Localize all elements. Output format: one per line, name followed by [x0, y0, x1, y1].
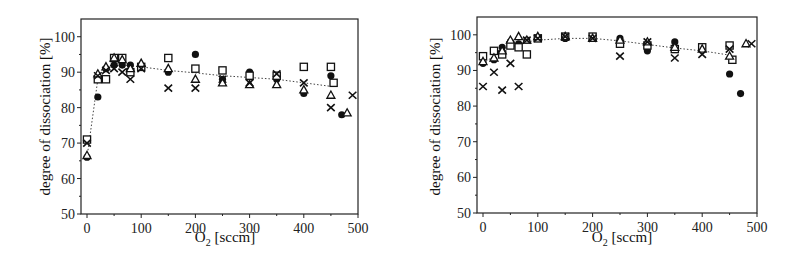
y-tick-label: 100	[54, 30, 75, 45]
cross-marker	[327, 104, 335, 111]
open-triangle-marker	[83, 151, 91, 158]
y-tick-label: 90	[457, 63, 471, 78]
open-triangle-marker	[506, 36, 514, 43]
open-square-marker	[192, 65, 199, 72]
x-tick-label: 500	[348, 221, 369, 236]
x-tick-label: 500	[747, 220, 768, 235]
right-y-axis-label: degree of dissociation [%]	[427, 17, 444, 217]
y-tick-label: 60	[457, 170, 471, 185]
open-triangle-marker	[164, 64, 172, 71]
right-chart-plot: 50607080901000100200300400500	[394, 0, 788, 267]
left-x-axis-label: O2 [sccm]	[170, 229, 280, 248]
y-tick-label: 100	[450, 28, 471, 43]
y-tick-label: 70	[457, 135, 471, 150]
y-tick-label: 70	[61, 136, 75, 151]
left-chart: 50607080901000100200300400500 degree of …	[0, 0, 394, 267]
y-tick-label: 50	[61, 207, 75, 222]
cross-marker	[118, 69, 126, 76]
cross-marker	[671, 54, 679, 61]
open-square-marker	[515, 44, 522, 51]
filled-circle-marker	[94, 93, 101, 100]
cross-marker	[498, 87, 506, 94]
open-square-marker	[300, 63, 307, 70]
right-chart: 50607080901000100200300400500 degree of …	[394, 0, 788, 267]
open-triangle-marker	[191, 75, 199, 82]
y-tick-label: 60	[61, 172, 75, 187]
open-triangle-marker	[300, 86, 308, 93]
left-chart-plot: 50607080901000100200300400500	[0, 0, 394, 267]
x-tick-label: 100	[527, 220, 548, 235]
x-tick-label: 400	[692, 220, 713, 235]
y-tick-label: 80	[61, 101, 75, 116]
filled-circle-marker	[726, 70, 733, 77]
cross-marker	[127, 76, 135, 83]
series-open-triangle	[83, 54, 351, 159]
right-x-axis-label: O2 [sccm]	[567, 229, 677, 248]
series-cross	[83, 65, 356, 146]
cross-marker	[349, 92, 357, 99]
y-tick-label: 80	[457, 99, 471, 114]
x-tick-label: 0	[480, 220, 487, 235]
open-square-marker	[330, 79, 337, 86]
y-tick-label: 50	[457, 206, 471, 221]
y-tick-label: 90	[61, 65, 75, 80]
open-square-marker	[102, 76, 109, 83]
open-square-marker	[246, 72, 253, 79]
x-tick-label: 0	[84, 221, 91, 236]
open-triangle-marker	[327, 91, 335, 98]
filled-circle-marker	[192, 51, 199, 58]
axes: 50607080901000100200300400500	[54, 19, 369, 236]
x-tick-label: 400	[293, 221, 314, 236]
open-square-marker	[523, 51, 530, 58]
left-y-axis-label: degree of dissociation [%]	[37, 17, 54, 217]
cross-marker	[616, 53, 624, 60]
cross-marker	[490, 69, 498, 76]
cross-marker	[515, 83, 523, 90]
open-square-marker	[327, 63, 334, 70]
cross-marker	[507, 60, 515, 67]
fit-line	[87, 65, 331, 157]
open-square-marker	[219, 67, 226, 74]
filled-circle-marker	[737, 90, 744, 97]
cross-marker	[165, 85, 173, 92]
x-tick-label: 100	[131, 221, 152, 236]
open-triangle-marker	[246, 80, 254, 87]
open-triangle-marker	[515, 32, 523, 39]
filled-circle-marker	[327, 72, 334, 79]
open-square-marker	[165, 54, 172, 61]
cross-marker	[479, 83, 487, 90]
cross-marker	[192, 85, 200, 92]
